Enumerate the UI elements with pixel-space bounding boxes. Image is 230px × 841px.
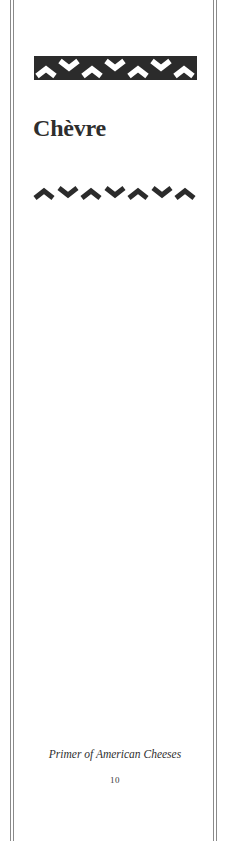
- right-inner-rule: [213, 0, 214, 841]
- chevron-banner-icon: [34, 56, 197, 80]
- page-title: Chèvre: [33, 116, 106, 140]
- right-outer-rule: [216, 0, 217, 841]
- running-footer-title: Primer of American Cheeses: [0, 749, 230, 761]
- page-number: 10: [0, 776, 230, 785]
- left-inner-rule: [13, 0, 14, 841]
- chevron-pattern-icon: [33, 185, 197, 201]
- chevron-pattern-icon: [34, 56, 197, 80]
- chevron-divider-icon: [33, 185, 197, 201]
- left-outer-rule: [10, 0, 11, 841]
